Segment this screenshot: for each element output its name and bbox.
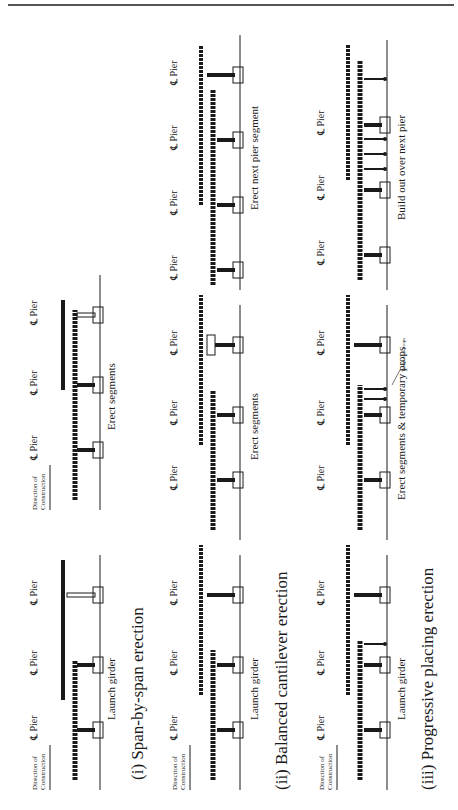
- pier-label: ℄ Pier: [28, 370, 39, 396]
- stage-label: Erect segments: [105, 363, 117, 430]
- direction-label: Direction of: [31, 475, 39, 510]
- pier-label: ℄ Pier: [168, 255, 179, 281]
- direction-label: Direction of: [318, 755, 326, 790]
- diagram-progressive-launch-girder: Direction of Construction ℄ Pier ℄ Pier …: [312, 540, 407, 790]
- pier-label: ℄ Pier: [315, 465, 326, 491]
- pier-label: ℄ Pier: [315, 400, 326, 426]
- panel-progressive-launch-girder: Direction of Construction ℄ Pier ℄ Pier …: [312, 540, 407, 790]
- stage-label: Launch girder: [395, 658, 407, 720]
- figure-erection-methods: Direction of Construction ℄ Pier ℄ Pier …: [0, 0, 458, 810]
- stage-label: Erect next pier segment: [248, 106, 260, 210]
- pier-label: ℄ Pier: [315, 330, 326, 356]
- panel-cantilever-launch-girder: Direction of Construction ℄ Pier ℄ Pier …: [165, 540, 260, 790]
- stage-label: Launch girder: [248, 658, 260, 720]
- pier-label: ℄ Pier: [168, 190, 179, 216]
- pier-label: ℄ Pier: [315, 240, 326, 266]
- pier-label: ℄ Pier: [168, 60, 179, 86]
- pier-label: ℄ Pier: [28, 715, 39, 741]
- diagram-progressive-erect-segments: ℄ Pier ℄ Pier ℄ Pier Temporary props: [312, 290, 407, 540]
- pier-label: ℄ Pier: [28, 435, 39, 461]
- direction-label: Construction: [326, 753, 334, 790]
- diagram-cantilever-erect-segments: ℄ Pier ℄ Pier ℄ Pier: [165, 290, 260, 540]
- stage-label: Erect segments & temporary props: [395, 347, 407, 500]
- pier-label: ℄ Pier: [315, 715, 326, 741]
- pier-label: ℄ Pier: [315, 110, 326, 136]
- diagram-cantilever-launch-girder: Direction of Construction ℄ Pier ℄ Pier …: [165, 540, 260, 790]
- panel-progressive-erect-segments: ℄ Pier ℄ Pier ℄ Pier Temporary props: [312, 290, 407, 540]
- pier-label: ℄ Pier: [168, 580, 179, 606]
- pier-label: ℄ Pier: [28, 650, 39, 676]
- panel-progressive-build-out: ℄ Pier ℄ Pier ℄ Pier: [312, 20, 407, 290]
- pier-label: ℄ Pier: [168, 125, 179, 151]
- stage-label: Build out over next pier: [395, 115, 407, 220]
- section-caption: (i) Span-by-span erection: [128, 607, 148, 780]
- direction-label: Construction: [39, 473, 47, 510]
- pier-label: ℄ Pier: [168, 715, 179, 741]
- section-caption: (iii) Progressive placing erection: [418, 568, 438, 790]
- pier-label: ℄ Pier: [168, 330, 179, 356]
- pier-label: ℄ Pier: [28, 300, 39, 326]
- pier-label: ℄ Pier: [315, 580, 326, 606]
- panel-cantilever-next-pier: ℄ Pier ℄ Pier ℄ Pier ℄ Pier: [165, 20, 260, 290]
- direction-label: Construction: [39, 753, 47, 790]
- pier-label: ℄ Pier: [168, 650, 179, 676]
- direction-label: Direction of: [171, 755, 179, 790]
- direction-label: Construction: [179, 753, 187, 790]
- pier-label: ℄ Pier: [28, 580, 39, 606]
- pier-label: ℄ Pier: [168, 465, 179, 491]
- panel-cantilever-erect-segments: ℄ Pier ℄ Pier ℄ Pier: [165, 290, 260, 540]
- diagram-cantilever-next-pier: ℄ Pier ℄ Pier ℄ Pier ℄ Pier: [165, 20, 260, 290]
- stage-label: Erect segments: [248, 393, 260, 460]
- section-caption: (ii) Balanced cantilever erection: [272, 571, 292, 790]
- pier-label: ℄ Pier: [315, 650, 326, 676]
- pier-label: ℄ Pier: [315, 175, 326, 201]
- stage-label: Launch girder: [105, 658, 117, 720]
- direction-label: Direction of: [31, 755, 39, 790]
- diagram-progressive-build-out: ℄ Pier ℄ Pier ℄ Pier: [312, 20, 407, 290]
- pier-label: ℄ Pier: [168, 400, 179, 426]
